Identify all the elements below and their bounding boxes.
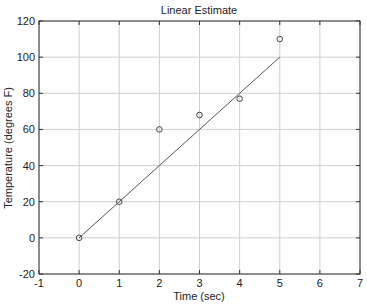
x-tick-label: 6: [317, 277, 323, 289]
y-tick-label: -20: [19, 268, 35, 280]
y-tick-label: 80: [23, 87, 35, 99]
axis-ticks: -101234567-20020406080100120: [17, 15, 363, 289]
plot-series: [76, 36, 282, 240]
x-tick-label: 0: [76, 277, 82, 289]
x-axis-label: Time (sec): [173, 290, 225, 302]
y-tick-label: 40: [23, 160, 35, 172]
y-tick-label: 0: [29, 232, 35, 244]
x-tick-label: -1: [34, 277, 44, 289]
fit-line: [79, 57, 280, 238]
x-tick-label: 4: [237, 277, 243, 289]
y-tick-label: 20: [23, 196, 35, 208]
x-tick-label: 3: [196, 277, 202, 289]
x-tick-label: 5: [277, 277, 283, 289]
x-tick-label: 7: [357, 277, 363, 289]
chart-title: Linear Estimate: [161, 4, 237, 16]
x-tick-label: 1: [116, 277, 122, 289]
y-tick-label: 100: [17, 51, 35, 63]
y-axis-label: Temperature (degrees F): [2, 87, 14, 209]
x-tick-label: 2: [156, 277, 162, 289]
y-tick-label: 120: [17, 15, 35, 27]
y-tick-label: 60: [23, 123, 35, 135]
grid: [39, 21, 360, 274]
chart: Linear Estimate -101234567-2002040608010…: [0, 0, 367, 306]
